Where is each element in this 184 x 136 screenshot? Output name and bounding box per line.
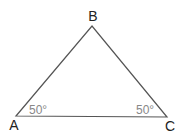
triangle-diagram: B A C 50° 50° bbox=[0, 0, 184, 136]
angle-label-a: 50° bbox=[29, 103, 47, 117]
vertex-label-a: A bbox=[9, 117, 19, 133]
vertex-label-b: B bbox=[88, 8, 97, 24]
vertex-label-c: C bbox=[165, 118, 175, 134]
angle-label-c: 50° bbox=[136, 103, 154, 117]
